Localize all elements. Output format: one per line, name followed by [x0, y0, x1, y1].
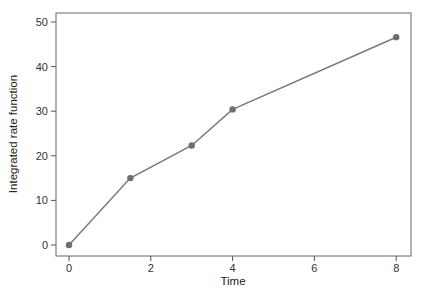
data-point-marker [189, 142, 195, 148]
x-tick-label: 8 [393, 262, 399, 274]
x-axis: 02468 [66, 256, 399, 274]
y-tick-label: 30 [36, 105, 48, 117]
y-tick-label: 50 [36, 16, 48, 28]
data-point-marker [66, 242, 72, 248]
x-axis-title: Time [220, 275, 245, 287]
y-tick-label: 20 [36, 150, 48, 162]
data-point-marker [127, 175, 133, 181]
x-tick-label: 6 [311, 262, 317, 274]
x-tick-label: 2 [148, 262, 154, 274]
line-chart: 01020304050 02468 Time Integrated rate f… [0, 0, 429, 293]
y-tick-label: 40 [36, 61, 48, 73]
data-point-marker [393, 34, 399, 40]
x-tick-label: 0 [66, 262, 72, 274]
y-axis-title: Integrated rate function [7, 75, 19, 193]
data-point-marker [229, 106, 235, 112]
x-tick-label: 4 [230, 262, 236, 274]
y-tick-label: 0 [42, 239, 48, 251]
plot-frame [56, 13, 411, 256]
y-tick-label: 10 [36, 194, 48, 206]
y-axis: 01020304050 [36, 16, 56, 251]
